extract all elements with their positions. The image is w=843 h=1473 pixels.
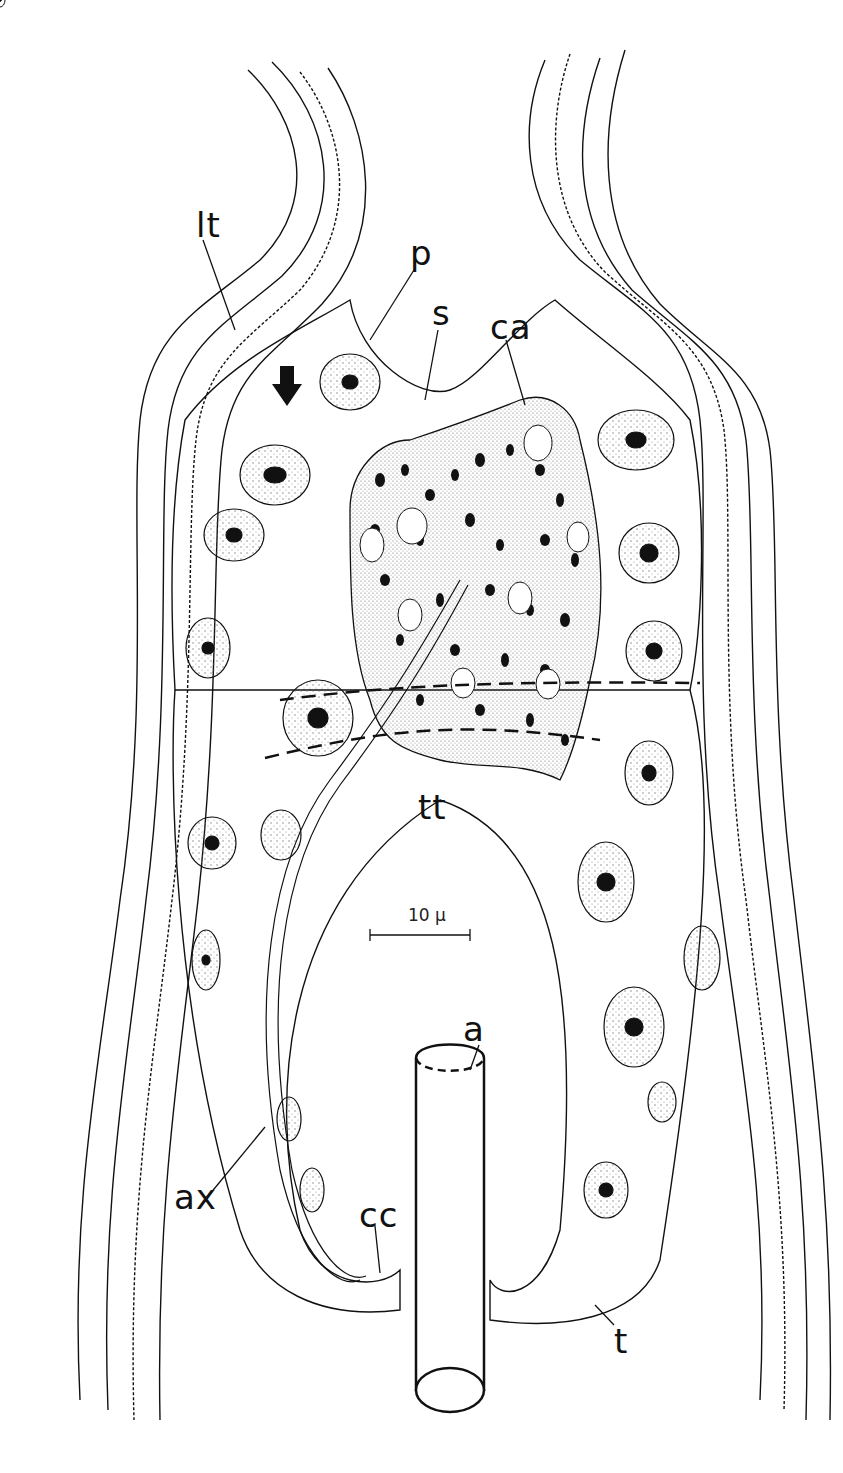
arrow-icon <box>272 366 302 406</box>
histology-figure <box>0 0 843 1473</box>
label-ca: ca <box>490 310 532 344</box>
scale-bar <box>370 929 470 941</box>
central-cell-cluster <box>350 397 601 780</box>
axon-cylinder <box>416 1045 484 1413</box>
label-s: s <box>432 296 451 330</box>
label-p: p <box>410 236 433 270</box>
label-t: t <box>614 1324 628 1358</box>
label-a: a <box>463 1012 485 1046</box>
label-lt: lt <box>196 208 221 242</box>
epithelial-cells <box>0 0 5 7</box>
label-ax: ax <box>174 1180 217 1214</box>
scale-bar-label: 10 µ <box>408 905 446 925</box>
label-cc: cc <box>359 1198 398 1232</box>
label-tt: tt <box>418 790 447 824</box>
